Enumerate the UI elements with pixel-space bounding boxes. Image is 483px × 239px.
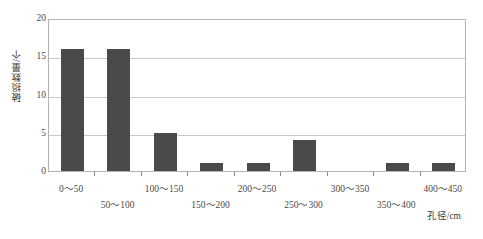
bars bbox=[49, 20, 465, 171]
y-axis-title: 破损数量/个 bbox=[10, 30, 26, 122]
bar bbox=[61, 49, 84, 171]
x-axis-tick-label: 200～250 bbox=[238, 185, 277, 195]
bar bbox=[200, 163, 223, 171]
bar bbox=[432, 163, 455, 171]
x-axis-tick-labels: 0～5050～100100～150150～200200～250250～30030… bbox=[48, 176, 466, 216]
plot-area bbox=[48, 19, 466, 172]
bar bbox=[107, 49, 130, 171]
y-axis-tick-label: 10 bbox=[37, 91, 47, 101]
x-axis-tick-label: 50～100 bbox=[101, 201, 135, 211]
x-axis-tick-label: 400～450 bbox=[424, 185, 463, 195]
bar bbox=[386, 163, 409, 171]
x-axis-tick-label: 250～300 bbox=[284, 201, 323, 211]
x-axis-tick-label: 100～150 bbox=[145, 185, 184, 195]
y-axis-tick-label: 15 bbox=[37, 53, 47, 63]
x-axis-tick-label: 300～350 bbox=[331, 185, 370, 195]
bar-chart: 破损数量/个 05101520 0～5050～100100～150150～200… bbox=[0, 0, 483, 239]
x-axis-tick-label: 0～50 bbox=[59, 185, 83, 195]
y-axis-tick-labels: 05101520 bbox=[26, 19, 46, 172]
x-axis-title: 孔径/cm bbox=[427, 212, 461, 222]
y-axis-tick-label: 20 bbox=[37, 14, 47, 24]
bar bbox=[247, 163, 270, 171]
y-axis-tick-label: 5 bbox=[41, 129, 46, 139]
bar bbox=[293, 140, 316, 171]
x-axis-tick-label: 150～200 bbox=[191, 201, 230, 211]
y-axis-tick-label: 0 bbox=[41, 167, 46, 177]
bar bbox=[154, 133, 177, 171]
x-axis-tick-label: 350～400 bbox=[377, 201, 416, 211]
